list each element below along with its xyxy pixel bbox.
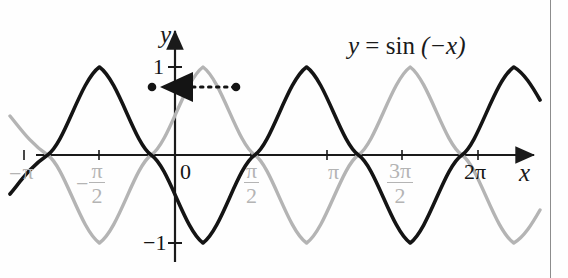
fraction-denominator: 2	[89, 183, 104, 208]
equation-argument: (−x)	[421, 32, 466, 59]
fraction-numerator: π	[89, 159, 104, 183]
equation-lhs: y	[348, 32, 359, 59]
reflection-source-point	[232, 83, 241, 92]
x-tick-label-minus-pi-over-2: −π2	[76, 159, 105, 208]
equation-label: y = sin (−x)	[348, 33, 466, 58]
plot-canvas	[0, 0, 568, 278]
sine-reflection-figure: y x 1 −1 −π −π2 0 π2 π 3π2 2π y = sin (−…	[0, 0, 568, 278]
fraction: π2	[89, 159, 104, 208]
fraction-numerator: π	[244, 159, 259, 183]
fraction: π2	[244, 159, 259, 208]
fraction-denominator: 2	[387, 183, 413, 208]
fraction-denominator: 2	[244, 183, 259, 208]
equation-equals: =	[365, 32, 379, 59]
x-tick-label-3pi-over-2: 3π2	[387, 159, 413, 208]
page-border-rule	[550, 0, 551, 278]
reflection-target-point	[148, 83, 157, 92]
y-tick-label-1: 1	[153, 56, 164, 78]
x-axis-label: x	[519, 160, 530, 185]
x-tick-label-pi: π	[328, 161, 339, 183]
x-tick-label-2pi: 2π	[464, 161, 486, 183]
x-tick-label-pi-over-2: π2	[244, 159, 259, 208]
x-tick-label-minus-pi: −π	[9, 161, 34, 185]
fraction: 3π2	[387, 159, 413, 208]
minus-sign: −	[9, 163, 22, 185]
minus-sign: −	[76, 173, 89, 195]
equation-function: sin	[386, 32, 415, 59]
fraction-numerator: 3π	[387, 159, 413, 183]
pi-glyph: π	[22, 159, 33, 184]
y-axis-label: y	[160, 22, 171, 47]
x-tick-label-zero: 0	[180, 161, 191, 183]
y-tick-label-minus-1: −1	[143, 232, 166, 254]
